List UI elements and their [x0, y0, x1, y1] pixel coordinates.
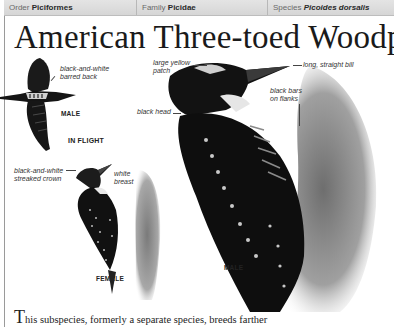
species-label: Species — [273, 3, 301, 12]
family-cell: Family Picidae — [137, 0, 268, 15]
annotation-line: black-and-white — [60, 65, 109, 73]
annotation-line: large yellow — [153, 59, 190, 67]
annotation-line: white — [114, 170, 133, 178]
taxonomy-header: Order Piciformes Family Picidae Species … — [4, 0, 394, 16]
drop-cap: T — [14, 307, 25, 327]
species-description: This subspecies, formerly a separate spe… — [14, 312, 267, 325]
male-patch-annotation: large yellow patch — [153, 59, 190, 75]
annotation-line: streaked crown — [14, 175, 63, 183]
annotation-line: breast — [114, 178, 133, 186]
flight-caption: IN FLIGHT — [68, 137, 104, 144]
annotation-line: barred back — [60, 73, 109, 81]
male-flanks-annotation: black bars on flanks — [270, 87, 302, 103]
order-value: Piciformes — [32, 3, 73, 12]
male-bill-annotation: long, straight bill — [303, 61, 354, 69]
field-guide-page: Order Piciformes Family Picidae Species … — [0, 0, 394, 327]
annotation-line: on flanks — [270, 95, 302, 103]
male-head-leader — [173, 113, 181, 114]
male-caption: MALE — [224, 264, 243, 271]
female-breast-annotation: white breast — [114, 170, 133, 186]
female-crown-annotation: black-and-white streaked crown — [14, 167, 63, 183]
male-head-annotation: black head — [137, 108, 171, 116]
annotation-line: patch — [153, 67, 190, 75]
annotation-line: black bars — [270, 87, 302, 95]
family-label: Family — [142, 3, 166, 12]
woodpecker-male-illustration — [140, 56, 394, 312]
male-patch-leader — [193, 65, 207, 66]
female-caption: FEMALE — [96, 275, 124, 282]
flight-back-annotation: black-and-white barred back — [60, 65, 109, 81]
order-label: Order — [9, 3, 29, 12]
page-title: American Three-toed Woodpecker — [14, 19, 394, 56]
order-cell: Order Piciformes — [4, 0, 137, 15]
female-crown-leader — [66, 170, 76, 171]
male-flanks-leader — [299, 104, 300, 126]
flight-sex-caption: MALE — [61, 110, 80, 117]
family-value: Picidae — [168, 3, 196, 12]
male-bill-leader — [293, 65, 302, 66]
description-text: his subspecies, formerly a separate spec… — [25, 314, 267, 325]
annotation-line: black-and-white — [14, 167, 63, 175]
species-value: Picoides dorsalis — [304, 3, 370, 12]
species-cell: Species Picoides dorsalis — [268, 0, 394, 15]
